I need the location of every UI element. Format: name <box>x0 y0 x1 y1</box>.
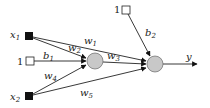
edge-w4 <box>33 65 86 94</box>
bias1-node <box>26 57 34 65</box>
label-y: y <box>185 51 192 62</box>
neural-network-diagram: x1 1 x2 1 w1 w2 b1 w3 w4 w5 b2 y <box>0 0 210 108</box>
input-x1-node <box>25 32 33 40</box>
label-bias1: 1 <box>17 56 23 67</box>
bias2-node <box>122 6 130 14</box>
label-w1: w1 <box>84 35 97 48</box>
input-x2-node <box>25 92 33 100</box>
label-b2: b2 <box>145 27 156 40</box>
label-w2: w2 <box>68 42 82 55</box>
label-w5: w5 <box>80 87 94 100</box>
hidden-neuron <box>87 53 103 69</box>
label-x1: x1 <box>10 29 20 42</box>
label-w4: w4 <box>44 70 57 83</box>
output-neuron <box>147 56 163 72</box>
label-w3: w3 <box>107 50 121 63</box>
label-x2: x2 <box>10 91 21 104</box>
label-bias2: 1 <box>114 4 120 15</box>
edge-w3 <box>103 62 146 64</box>
